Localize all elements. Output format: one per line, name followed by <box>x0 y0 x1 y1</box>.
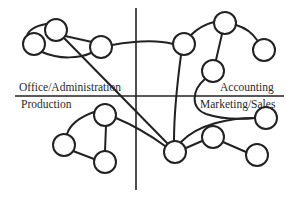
node-m <box>202 126 224 148</box>
node-c <box>90 36 112 58</box>
edge-e-g <box>216 34 222 60</box>
node-g <box>202 60 224 82</box>
node-d <box>173 33 195 55</box>
node-b <box>23 33 45 55</box>
edge-d-k <box>174 55 181 141</box>
node-j <box>94 151 116 173</box>
edge-h-j <box>105 126 106 151</box>
label-accounting: Accounting <box>220 81 274 94</box>
edge-h-k <box>116 118 165 146</box>
edge-a-c <box>65 36 92 42</box>
edge-i-j <box>73 151 94 159</box>
label-office-administration: Office/Administration <box>19 81 121 93</box>
edge-k-m <box>186 141 202 148</box>
node-n <box>246 144 268 166</box>
node-k <box>164 141 186 163</box>
edge-d-e <box>191 22 214 35</box>
node-e <box>214 12 236 34</box>
diagram-canvas: Office/Administration Accounting Product… <box>0 0 297 199</box>
edge-h-i <box>67 112 94 134</box>
node-h <box>94 104 116 126</box>
edge-m-n <box>223 142 246 152</box>
node-i <box>53 134 75 156</box>
network-diagram: Office/Administration Accounting Product… <box>0 0 297 199</box>
node-a <box>45 19 67 41</box>
edge-c-d <box>112 41 173 45</box>
node-l <box>255 107 277 129</box>
edge-e-f <box>236 25 257 40</box>
edge-b-c <box>42 52 91 57</box>
label-production: Production <box>21 98 72 110</box>
node-f <box>253 39 275 61</box>
